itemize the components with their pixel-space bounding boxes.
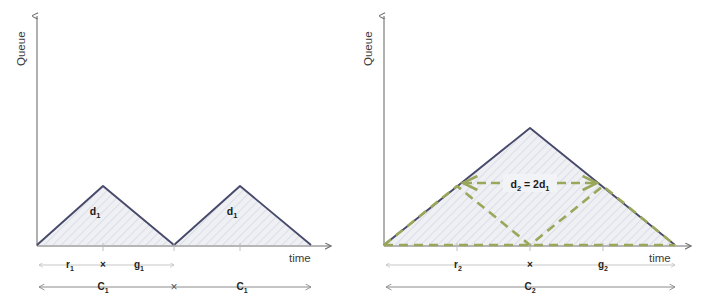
dim-label-r1: r1 [66,259,74,272]
queue-triangle-1-fill [37,186,174,245]
x-axis-label: time [649,252,671,264]
dim-cross-marker-r1g1: × [100,259,106,270]
dim-cross-marker-c1: × [170,280,177,294]
left-panel: Queue time d1 d1 r1 g1 × C1 C1 × [0,0,351,302]
queue-triangle-2-fill [174,186,311,245]
y-axis-label: Queue [15,31,27,66]
right-panel-svg: Queue time d2 = 2d1 r2 g2 × C2 [351,0,702,302]
left-panel-svg: Queue time d1 d1 r1 g1 × C1 C1 × [0,0,351,302]
dim-cross-marker-r2g2: × [527,259,533,270]
x-axis-label: time [289,252,311,264]
dim-label-c2: C2 [524,281,535,294]
dim-label-c1-first: C1 [97,281,108,294]
dim-label-g1: g1 [134,259,144,272]
dim-label-c1-second: C1 [236,281,247,294]
right-panel: Queue time d2 = 2d1 r2 g2 × C2 [351,0,702,302]
dim-label-g2: g2 [598,259,608,272]
dim-label-r2: r2 [454,259,462,272]
y-axis-label: Queue [362,31,374,66]
